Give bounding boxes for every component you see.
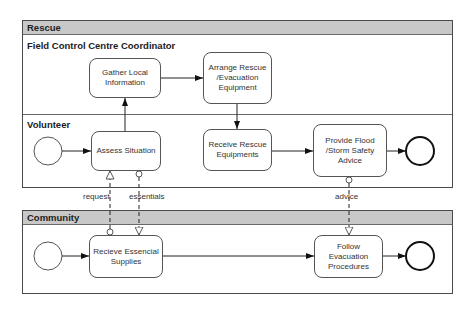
lane-label-coordinator: Field Control Centre Coordinator <box>27 40 175 51</box>
lane-label-volunteer: Volunteer <box>27 119 70 130</box>
task-recieve-essencial-supplies[interactable]: Recieve Essencial Supplies <box>89 235 163 278</box>
message-label-essentials: essentials <box>129 192 165 201</box>
task-follow-evacuation-procedures[interactable]: Follow Evacuation Procedures <box>314 235 383 278</box>
task-receive-rescue-equipments[interactable]: Receive Rescue Equipments <box>203 129 272 171</box>
pool-community-header: Community <box>23 211 452 225</box>
task-gather-local-information[interactable]: Gather Local Information <box>89 58 161 98</box>
message-label-request: request <box>83 192 110 201</box>
task-assess-situation[interactable]: Assess Situation <box>91 131 161 171</box>
task-arrange-rescue-equipment[interactable]: Arrange Rescue /Evacuation Equipment <box>203 52 272 104</box>
lane-divider <box>23 114 452 115</box>
message-label-advice: advice <box>335 192 358 201</box>
pool-rescue-header: Rescue <box>23 21 452 35</box>
pool-community: Community <box>22 210 453 294</box>
task-provide-safety-advice[interactable]: Provide Flood /Storm Safety Advice <box>313 124 387 177</box>
